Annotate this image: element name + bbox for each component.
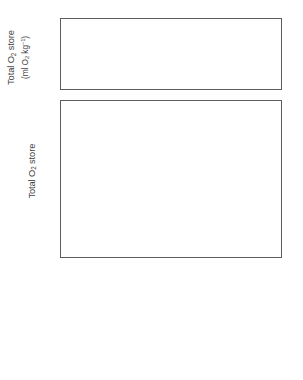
bottom-chart-panel: [60, 100, 282, 258]
top-bars-group: [60, 18, 282, 90]
top-chart-panel: [60, 18, 282, 90]
figure-o2-store: Total O2 store (ml O2 kg−1) Total O2 sto…: [0, 0, 303, 380]
bottom-bars-group: [60, 100, 282, 258]
top-y-axis-label-line1: Total O2 store: [6, 30, 16, 85]
x-axis-category-labels: [0, 262, 303, 322]
bottom-y-tick-labels: [28, 0, 56, 380]
